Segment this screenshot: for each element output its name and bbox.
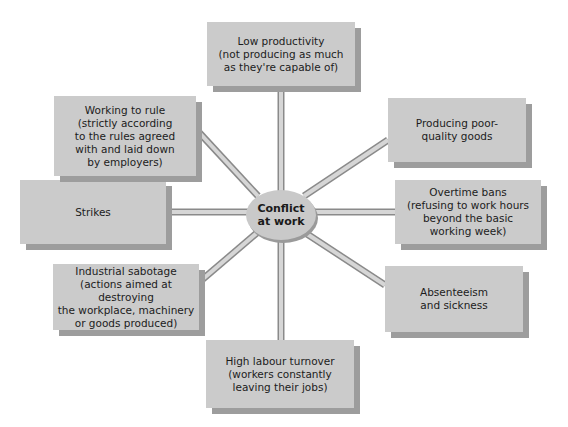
node-strikes: Strikes: [20, 180, 166, 244]
node-detail: by employers): [75, 156, 175, 169]
node-detail: beyond the basic: [407, 212, 529, 225]
node-title: Absenteeism: [420, 286, 488, 299]
node-detail: or goods produced): [55, 317, 197, 330]
node-detail: with and laid down: [75, 143, 175, 156]
node-detail: the workplace, machinery: [55, 304, 197, 317]
node-title: Overtime bans: [407, 186, 529, 199]
node-title: Strikes: [75, 206, 111, 219]
node-absenteeism: Absenteeism and sickness: [385, 266, 523, 332]
node-detail: leaving their jobs): [225, 381, 334, 394]
node-title: Working to rule: [75, 104, 175, 117]
node-detail: (workers constantly: [225, 368, 334, 381]
node-title: quality goods: [416, 130, 498, 143]
node-title: High labour turnover: [225, 355, 334, 368]
center-title: Conflict: [257, 202, 304, 215]
node-poor-quality: Producing poor- quality goods: [388, 98, 526, 162]
node-sabotage: Industrial sabotage (actions aimed at de…: [53, 264, 199, 330]
center-node-conflict-at-work: Conflict at work: [246, 190, 316, 240]
node-overtime-bans: Overtime bans (refusing to work hours be…: [395, 180, 541, 244]
node-detail: (not producing as much: [218, 48, 343, 61]
node-working-to-rule: Working to rule (strictly according to t…: [54, 96, 196, 176]
node-detail: as they're capable of): [218, 61, 343, 74]
center-title: at work: [257, 215, 304, 228]
node-title: Industrial sabotage: [55, 265, 197, 278]
conflict-at-work-diagram: Low productivity (not producing as much …: [0, 0, 568, 427]
node-detail: working week): [407, 225, 529, 238]
node-title: and sickness: [420, 299, 488, 312]
node-detail: (strictly according: [75, 117, 175, 130]
node-labour-turnover: High labour turnover (workers constantly…: [206, 340, 354, 408]
node-low-productivity: Low productivity (not producing as much …: [207, 22, 355, 86]
node-detail: (refusing to work hours: [407, 199, 529, 212]
node-title: Low productivity: [218, 35, 343, 48]
node-detail: (actions aimed at destroying: [55, 278, 197, 304]
node-title: Producing poor-: [416, 117, 498, 130]
node-detail: to the rules agreed: [75, 130, 175, 143]
